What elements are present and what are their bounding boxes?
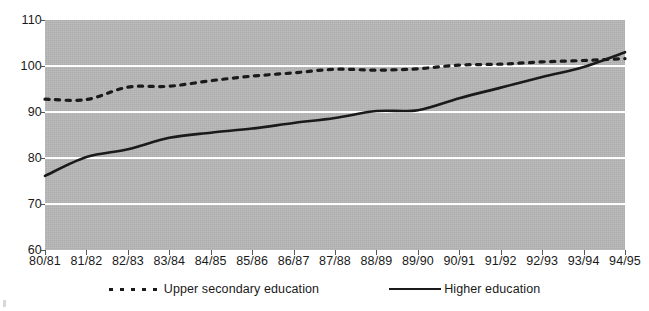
y-axis-tick-label: 70 bbox=[16, 198, 42, 211]
series-line-higher-education bbox=[45, 52, 625, 176]
x-axis-tick-label: 86/87 bbox=[278, 254, 310, 268]
x-axis-tick-label: 83/84 bbox=[153, 254, 185, 268]
plot-area bbox=[45, 20, 625, 250]
x-axis-tick-label: 80/81 bbox=[29, 254, 61, 268]
scan-edge-artifact bbox=[3, 300, 6, 307]
dotted-line-swatch-icon bbox=[109, 288, 161, 291]
y-axis-tick-label: 90 bbox=[16, 106, 42, 119]
y-axis-tick-label: 100 bbox=[16, 60, 42, 73]
x-axis-tick-label: 87/88 bbox=[319, 254, 351, 268]
x-axis-tick-label: 84/85 bbox=[195, 254, 227, 268]
x-axis-tick-label: 85/86 bbox=[236, 254, 268, 268]
legend-item-upper-secondary-education: Upper secondary education bbox=[109, 282, 319, 296]
legend-item-label: Higher education bbox=[444, 282, 540, 296]
x-axis-tick-label: 94/95 bbox=[609, 254, 641, 268]
y-axis-tickmark bbox=[40, 112, 45, 113]
x-axis-tick-label: 90/91 bbox=[443, 254, 475, 268]
y-axis-tickmark bbox=[40, 20, 45, 21]
x-axis-tick-label: 91/92 bbox=[485, 254, 517, 268]
y-axis-tick-label: 110 bbox=[16, 14, 42, 27]
legend-item-higher-education: Higher education bbox=[389, 282, 540, 296]
solid-line-swatch-icon bbox=[389, 288, 441, 290]
x-axis-tick-label: 92/93 bbox=[526, 254, 558, 268]
y-axis-tickmark bbox=[40, 204, 45, 205]
series-line-upper-secondary-education bbox=[45, 59, 625, 101]
y-axis-tick-label: 80 bbox=[16, 152, 42, 165]
x-axis-tick-label: 82/83 bbox=[112, 254, 144, 268]
x-axis-tick-label: 88/89 bbox=[361, 254, 393, 268]
legend-item-label: Upper secondary education bbox=[164, 282, 319, 296]
chart-legend: Upper secondary education Higher educati… bbox=[0, 279, 649, 299]
x-axis-labels: 80/8181/8282/8383/8484/8585/8686/8787/88… bbox=[0, 254, 649, 272]
x-axis-tick-label: 81/82 bbox=[71, 254, 103, 268]
x-axis-tick-label: 93/94 bbox=[568, 254, 600, 268]
y-axis-tickmark bbox=[40, 158, 45, 159]
x-axis-tick-label: 89/90 bbox=[402, 254, 434, 268]
series-lines bbox=[45, 20, 625, 250]
y-axis-tickmark bbox=[40, 66, 45, 67]
chart-figure: 60708090100110 80/8181/8282/8383/8484/85… bbox=[0, 0, 649, 311]
